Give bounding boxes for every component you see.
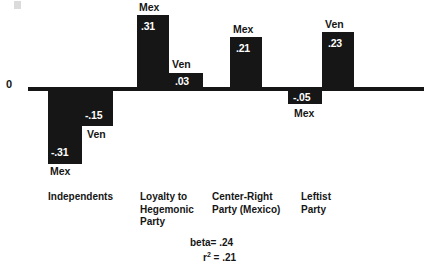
- bar-country-independents-mex: Mex: [50, 166, 70, 177]
- bar-chart: 0 -.31 Mex -.15 Ven .31 Mex .03 Ven .21 …: [0, 0, 424, 268]
- bar-country-loyalty-ven: Ven: [172, 59, 191, 70]
- r-squared-statistic: r2 = .21: [190, 249, 236, 264]
- bar-country-center-right-mex: Mex: [233, 24, 253, 35]
- category-label-loyalty-line3: Party: [140, 216, 212, 229]
- category-label-center-right: Center-Right Party (Mexico): [212, 191, 302, 216]
- bar-value-independents-ven: -.15: [85, 110, 102, 121]
- zero-axis-label: 0: [6, 79, 12, 90]
- bar-country-loyalty-mex: Mex: [139, 2, 159, 13]
- beta-statistic: beta= .24: [190, 237, 236, 249]
- bar-country-leftist-mex: Mex: [294, 108, 314, 119]
- category-label-leftist-line2: Party: [301, 204, 371, 217]
- category-label-leftist: Leftist Party: [301, 191, 371, 216]
- bar-country-independents-ven: Ven: [87, 129, 106, 140]
- category-label-loyalty: Loyalty to Hegemonic Party: [140, 191, 212, 229]
- bar-value-loyalty-mex: .31: [141, 21, 155, 32]
- category-label-loyalty-line1: Loyalty to: [140, 191, 212, 204]
- bar-value-loyalty-ven: .03: [175, 76, 189, 87]
- bar-value-leftist-mex: -.05: [293, 92, 310, 103]
- r-squared-value: = .21: [211, 252, 236, 263]
- category-label-center-right-line2: Party (Mexico): [212, 204, 302, 217]
- category-label-independents-line1: Independents: [48, 191, 113, 202]
- bar-value-center-right-mex: .21: [236, 43, 250, 54]
- bar-country-leftist-ven: Ven: [325, 19, 344, 30]
- category-label-loyalty-line2: Hegemonic: [140, 204, 212, 217]
- plot-area: 0 -.31 Mex -.15 Ven .31 Mex .03 Ven .21 …: [0, 0, 424, 180]
- category-label-leftist-line1: Leftist: [301, 191, 371, 204]
- category-label-independents: Independents: [48, 191, 133, 204]
- category-label-center-right-line1: Center-Right: [212, 191, 302, 204]
- bar-value-independents-mex: -.31: [51, 147, 68, 158]
- bar-value-leftist-ven: .23: [328, 38, 342, 49]
- regression-statistics: beta= .24 r2 = .21: [190, 237, 236, 264]
